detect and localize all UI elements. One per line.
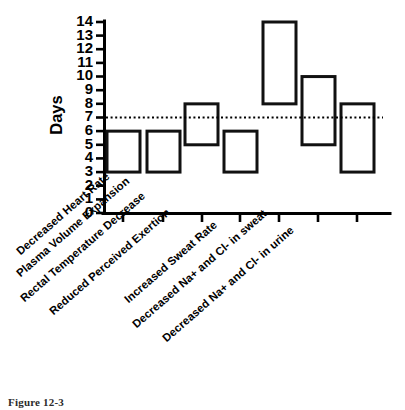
x-axis-category-labels: Decreased Heart Rate Plasma Volume Expan… (0, 218, 405, 386)
range-bar[interactable] (185, 104, 218, 145)
figure-root: Days 0 1 2 3 4 5 6 7 8 9 10 11 12 13 14 (0, 0, 405, 410)
range-bar[interactable] (147, 131, 180, 172)
range-bar[interactable] (263, 22, 296, 104)
range-bar[interactable] (341, 104, 374, 172)
figure-caption: Figure 12-3 (8, 396, 64, 408)
range-bar[interactable] (302, 77, 335, 145)
range-bar[interactable] (107, 131, 140, 172)
y-tick-label: 14 (76, 12, 93, 29)
range-bar[interactable] (224, 131, 257, 172)
y-axis-title: Days (47, 95, 65, 134)
bar-group (107, 22, 374, 172)
range-bar-chart: Days 0 1 2 3 4 5 6 7 8 9 10 11 12 13 14 (0, 0, 405, 232)
